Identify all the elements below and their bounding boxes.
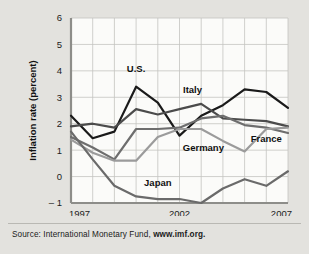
x-tick-2007: 2007 xyxy=(271,208,292,216)
y-tick-1: 1 xyxy=(57,145,62,156)
chart-plot-area: – 10123456 199720022007 Inflation rate (… xyxy=(0,0,309,216)
series-label-japan: Japan xyxy=(144,177,172,188)
inflation-rate-line-chart: – 10123456 199720022007 Inflation rate (… xyxy=(0,0,309,216)
y-tick-6: 6 xyxy=(57,12,62,23)
y-tick-3: 3 xyxy=(57,92,62,103)
series-label-france: France xyxy=(251,133,282,144)
x-tick-2002: 2002 xyxy=(169,208,190,216)
y-axis-title: Inflation rate (percent) xyxy=(27,60,38,160)
series-label-italy: Italy xyxy=(183,84,203,95)
series-label-us: U.S. xyxy=(127,63,145,74)
y-axis-title-text: Inflation rate (percent) xyxy=(27,60,38,160)
x-axis-tick-labels: 199720022007 xyxy=(69,208,292,216)
x-tick-1997: 1997 xyxy=(69,208,90,216)
y-tick--1: – 1 xyxy=(49,197,62,208)
y-tick-0: 0 xyxy=(57,171,62,182)
gridlines xyxy=(71,18,288,203)
source-prefix: Source: International Monetary Fund, xyxy=(12,230,151,239)
y-tick-2: 2 xyxy=(57,118,62,129)
y-tick-4: 4 xyxy=(57,65,62,76)
source-note: Source: International Monetary Fund, www… xyxy=(12,230,205,239)
y-tick-5: 5 xyxy=(57,39,62,50)
y-axis-tick-labels: – 10123456 xyxy=(49,12,62,208)
series-label-germany: Germany xyxy=(183,142,225,153)
source-divider xyxy=(8,223,301,224)
figure-container: – 10123456 199720022007 Inflation rate (… xyxy=(0,0,309,254)
source-link[interactable]: www.imf.org. xyxy=(153,230,205,239)
